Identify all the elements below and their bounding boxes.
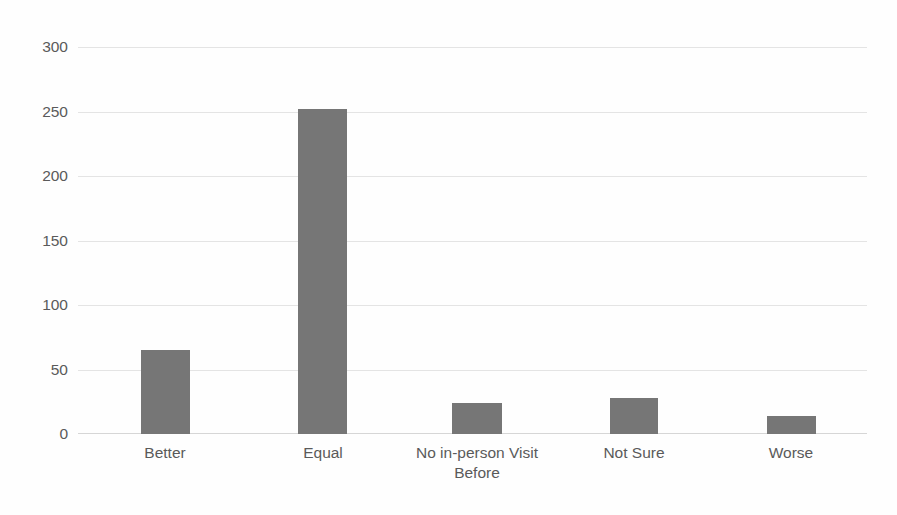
y-tick-label-200: 200 [0, 168, 68, 184]
bar-worse [767, 416, 816, 434]
x-axis-labels: Better Equal No in-person Visit Before N… [78, 443, 867, 503]
bar-not-sure [610, 398, 658, 434]
y-tick-label-250: 250 [0, 104, 68, 120]
bar-equal [298, 109, 347, 434]
x-tick-label-worse: Worse [712, 443, 870, 463]
y-axis-labels: 300 250 200 150 100 50 0 [0, 47, 68, 434]
y-tick-label-150: 150 [0, 233, 68, 249]
x-tick-label-not-sure: Not Sure [555, 443, 713, 463]
y-tick-label-50: 50 [0, 362, 68, 378]
x-tick-label-equal: Equal [244, 443, 402, 463]
x-tick-label-no-in-person-visit-before: No in-person Visit Before [398, 443, 556, 483]
x-tick-label-better: Better [86, 443, 244, 463]
y-tick-label-0: 0 [0, 426, 68, 442]
bar-better [141, 350, 190, 434]
bar-no-in-person-visit-before [452, 403, 502, 434]
y-tick-label-100: 100 [0, 297, 68, 313]
bars-layer [78, 47, 867, 434]
y-tick-label-300: 300 [0, 39, 68, 55]
bar-chart: 300 250 200 150 100 50 0 Better Equal No… [0, 0, 897, 515]
